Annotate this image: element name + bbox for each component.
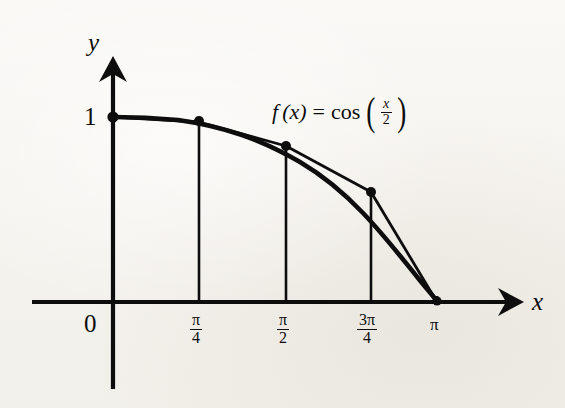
x-axis-label: x (532, 289, 543, 314)
data-point-marker-pi-over-4 (194, 116, 204, 126)
x-tick-pi-over-4-numerator: π (190, 312, 202, 330)
data-point-marker-3pi-over-4 (366, 187, 376, 197)
y-tick-label-1: 1 (84, 104, 97, 129)
x-tick-pi-over-4-denominator: 4 (190, 330, 202, 347)
cosine-curve (113, 117, 437, 301)
trapezoid-chord-polyline (113, 117, 437, 302)
figure-canvas: y x 1 0 π 4 π 2 3π 4 π f(x) = cos ( x 2 (0, 0, 565, 408)
formula-open-paren: ( (366, 97, 375, 127)
x-tick-pi-over-2-numerator: π (277, 312, 289, 330)
formula-argument-fraction: x 2 (381, 97, 392, 127)
x-tick-label-pi: π (430, 316, 439, 333)
formula-equals-sign: = (311, 99, 327, 125)
data-point-marker-pi-over-2 (281, 141, 291, 151)
formula-argument: (x) (282, 99, 306, 125)
formula-function-name: f (272, 99, 278, 125)
y-axis-label: y (88, 30, 99, 55)
formula-cos-operator: cos (331, 99, 360, 125)
plot-graphic (0, 0, 565, 408)
data-point-marker-0 (107, 111, 118, 122)
origin-label: 0 (84, 311, 97, 336)
x-tick-3pi-over-4-numerator: 3π (357, 312, 377, 330)
x-tick-label-pi-over-4: π 4 (190, 312, 202, 347)
x-tick-pi-over-2-denominator: 2 (277, 330, 289, 347)
formula-argument-denominator: 2 (381, 113, 392, 128)
x-tick-label-3pi-over-4: 3π 4 (357, 312, 377, 347)
x-tick-3pi-over-4-denominator: 4 (357, 330, 377, 347)
formula-argument-numerator: x (381, 97, 392, 113)
function-formula-label: f(x) = cos ( x 2 ) (272, 97, 408, 127)
x-tick-label-pi-over-2: π 2 (277, 312, 289, 347)
formula-close-paren: ) (397, 97, 406, 127)
